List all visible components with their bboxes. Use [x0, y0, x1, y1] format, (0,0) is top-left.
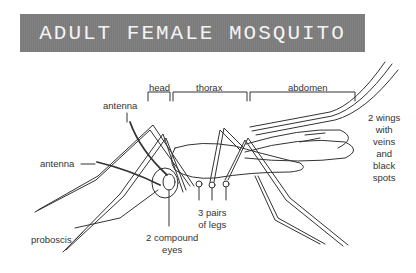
label-abdomen: abdomen: [288, 82, 328, 94]
label-legs: 3 pairs of legs: [198, 207, 227, 231]
mosquito-illustration: [0, 0, 416, 273]
label-compound-eyes: 2 compound eyes: [146, 232, 198, 256]
label-head: head: [149, 82, 170, 94]
proboscis-pointer: [75, 232, 83, 240]
label-antenna-top: antenna: [103, 100, 137, 112]
label-proboscis: proboscis: [31, 234, 72, 246]
label-thorax: thorax: [196, 82, 222, 94]
mosquito-diagram: ADULT FEMALE MOSQUITO: [0, 0, 416, 273]
label-antenna-left: antenna: [40, 158, 74, 170]
label-wings: 2 wings with veins and black spots: [368, 112, 400, 184]
